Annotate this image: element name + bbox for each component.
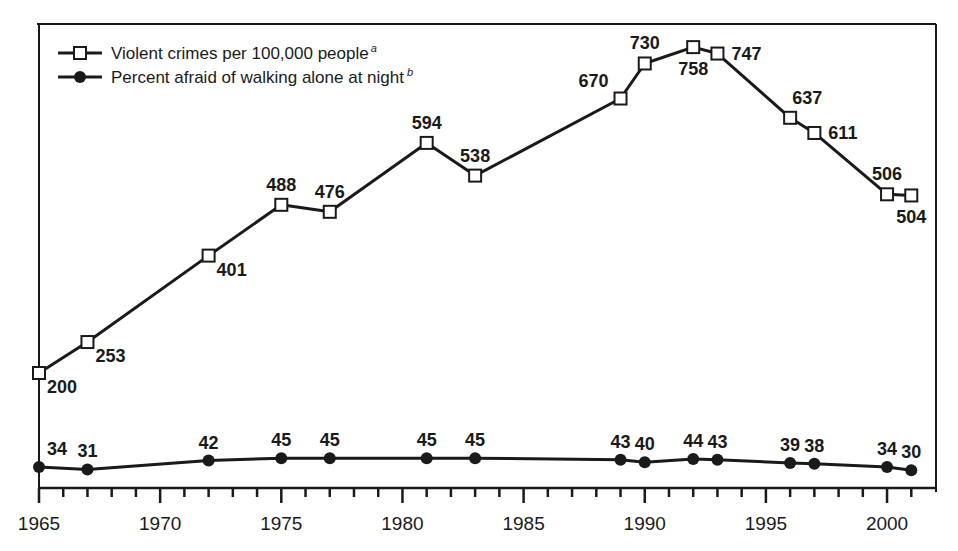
x-tick-label: 1990 bbox=[624, 513, 666, 534]
x-tick-label: 1965 bbox=[18, 513, 60, 534]
open-square-marker-icon bbox=[421, 137, 433, 149]
x-tick-label: 1995 bbox=[745, 513, 787, 534]
svg-text:Violent crimes per 100,000 peo: Violent crimes per 100,000 peoplea bbox=[111, 42, 377, 63]
data-label: 40 bbox=[635, 434, 655, 454]
data-label: 758 bbox=[678, 59, 708, 79]
filled-circle-marker-icon bbox=[639, 456, 651, 468]
line-chart: 19651970197519801985199019952000 2002534… bbox=[0, 0, 958, 551]
data-label: 476 bbox=[315, 182, 345, 202]
filled-circle-marker-icon bbox=[711, 454, 723, 466]
data-label: 42 bbox=[199, 433, 219, 453]
filled-circle-marker-icon bbox=[203, 455, 215, 467]
data-label: 45 bbox=[465, 430, 485, 450]
data-label: 34 bbox=[877, 439, 897, 459]
x-axis-ticks bbox=[39, 488, 911, 503]
x-tick-label: 1975 bbox=[260, 513, 302, 534]
open-square-marker-icon bbox=[74, 47, 86, 59]
data-label: 30 bbox=[901, 442, 921, 462]
filled-circle-marker-icon bbox=[881, 461, 893, 473]
data-label: 39 bbox=[780, 435, 800, 455]
x-tick-label: 1970 bbox=[139, 513, 181, 534]
open-square-marker-icon bbox=[711, 48, 723, 60]
crime-line bbox=[39, 47, 911, 373]
data-label: 670 bbox=[578, 71, 608, 91]
open-square-marker-icon bbox=[639, 57, 651, 69]
legend-superscript-b: b bbox=[407, 66, 413, 78]
data-label: 504 bbox=[896, 207, 926, 227]
open-square-marker-icon bbox=[33, 367, 45, 379]
data-label: 401 bbox=[217, 260, 247, 280]
data-label: 506 bbox=[872, 164, 902, 184]
legend-label-fear: Percent afraid of walking alone at night bbox=[111, 68, 404, 87]
open-square-marker-icon bbox=[784, 112, 796, 124]
data-label: 44 bbox=[683, 431, 703, 451]
data-label: 43 bbox=[611, 432, 631, 452]
fear-percent-series: 343142454545454340444339383430 bbox=[33, 430, 921, 476]
data-label: 747 bbox=[731, 44, 761, 64]
data-label: 38 bbox=[804, 436, 824, 456]
filled-circle-marker-icon bbox=[421, 452, 433, 464]
filled-circle-marker-icon bbox=[615, 454, 627, 466]
data-label: 594 bbox=[412, 113, 442, 133]
open-square-marker-icon bbox=[881, 188, 893, 200]
open-square-marker-icon bbox=[469, 170, 481, 182]
data-label: 488 bbox=[266, 175, 296, 195]
data-label: 611 bbox=[828, 123, 857, 143]
open-square-marker-icon bbox=[615, 93, 627, 105]
filled-circle-marker-icon bbox=[74, 71, 86, 83]
open-square-marker-icon bbox=[324, 206, 336, 218]
filled-circle-marker-icon bbox=[81, 463, 93, 475]
legend-item-fear: Percent afraid of walking alone at night… bbox=[58, 66, 413, 87]
filled-circle-marker-icon bbox=[275, 452, 287, 464]
open-square-marker-icon bbox=[275, 199, 287, 211]
filled-circle-marker-icon bbox=[687, 453, 699, 465]
filled-circle-marker-icon bbox=[905, 464, 917, 476]
data-label: 45 bbox=[417, 430, 437, 450]
x-tick-label: 2000 bbox=[866, 513, 908, 534]
data-label: 730 bbox=[630, 33, 660, 53]
x-tick-label: 1985 bbox=[502, 513, 544, 534]
open-square-marker-icon bbox=[808, 127, 820, 139]
legend-item-crime: Violent crimes per 100,000 peoplea bbox=[58, 42, 377, 63]
filled-circle-marker-icon bbox=[469, 452, 481, 464]
data-label: 43 bbox=[707, 432, 727, 452]
filled-circle-marker-icon bbox=[324, 452, 336, 464]
filled-circle-marker-icon bbox=[784, 457, 796, 469]
open-square-marker-icon bbox=[687, 41, 699, 53]
x-tick-label: 1980 bbox=[381, 513, 423, 534]
data-label: 253 bbox=[95, 346, 125, 366]
data-label: 200 bbox=[47, 377, 77, 397]
filled-circle-marker-icon bbox=[33, 461, 45, 473]
legend-superscript-a: a bbox=[371, 42, 377, 54]
data-label: 45 bbox=[320, 430, 340, 450]
open-square-marker-icon bbox=[905, 189, 917, 201]
legend-label-crime: Violent crimes per 100,000 people bbox=[111, 44, 369, 63]
data-label: 538 bbox=[460, 146, 490, 166]
data-label: 45 bbox=[271, 430, 291, 450]
x-axis-tick-labels: 19651970197519801985199019952000 bbox=[18, 513, 908, 534]
open-square-marker-icon bbox=[81, 336, 93, 348]
data-label: 34 bbox=[47, 439, 67, 459]
svg-text:Percent afraid of walking alon: Percent afraid of walking alone at night… bbox=[111, 66, 413, 87]
filled-circle-marker-icon bbox=[808, 458, 820, 470]
data-label: 31 bbox=[77, 441, 97, 461]
data-label: 637 bbox=[792, 88, 822, 108]
violent-crime-series: 2002534014884765945386707307587476376115… bbox=[33, 33, 926, 397]
legend: Violent crimes per 100,000 peoplea Perce… bbox=[58, 42, 413, 87]
open-square-marker-icon bbox=[203, 250, 215, 262]
